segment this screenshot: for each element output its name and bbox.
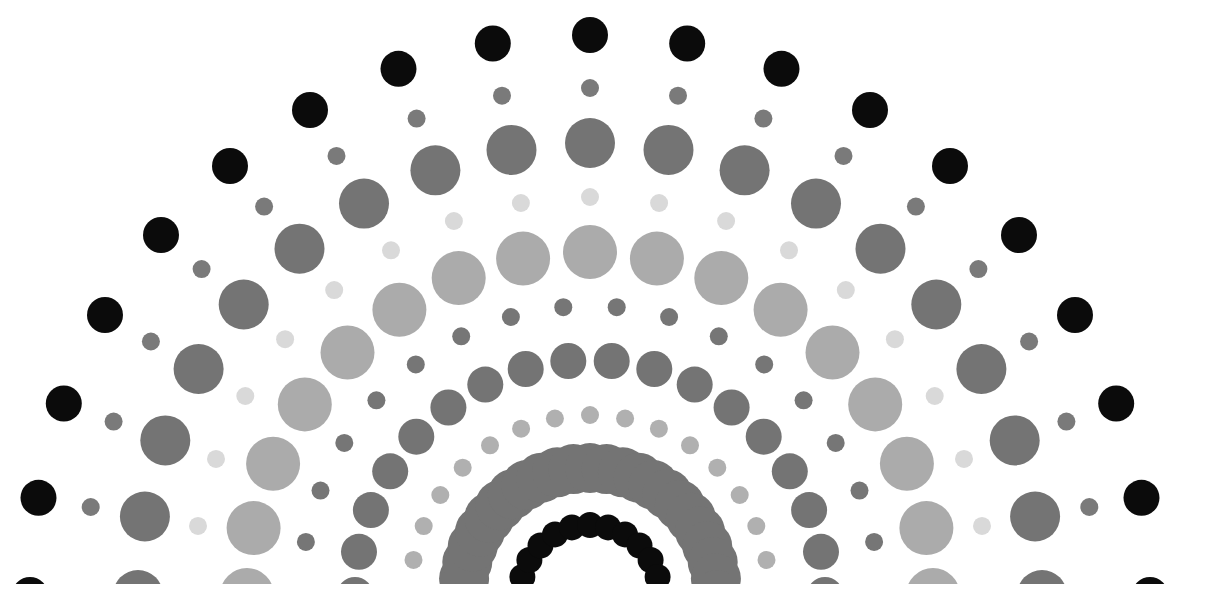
dot — [1098, 386, 1134, 422]
dot — [405, 551, 423, 569]
dot — [236, 387, 254, 405]
dot — [807, 577, 843, 584]
dot — [565, 118, 615, 168]
dot — [636, 351, 672, 387]
dot — [681, 436, 699, 454]
dot — [341, 534, 377, 570]
dot — [554, 298, 572, 316]
outer-black-ring — [12, 17, 1168, 584]
dot — [932, 148, 968, 184]
dot — [467, 367, 503, 403]
dot — [803, 534, 839, 570]
dot — [795, 391, 813, 409]
dot — [382, 241, 400, 259]
dot — [496, 232, 550, 286]
dot — [487, 125, 537, 175]
dot — [1020, 333, 1038, 351]
dot — [372, 283, 426, 337]
dot — [581, 188, 599, 206]
dot — [1057, 297, 1093, 333]
dot — [367, 391, 385, 409]
dot — [212, 148, 248, 184]
dot — [454, 459, 472, 477]
dot — [46, 386, 82, 422]
dot — [907, 198, 925, 216]
dot — [758, 551, 776, 569]
dot — [835, 147, 853, 165]
dot — [493, 87, 511, 105]
dot — [353, 492, 389, 528]
dot — [546, 410, 564, 428]
dot — [880, 437, 934, 491]
dot — [550, 343, 586, 379]
dot — [720, 145, 770, 195]
dot — [856, 224, 906, 274]
dot — [372, 453, 408, 489]
dot — [502, 308, 520, 326]
dot — [407, 355, 425, 373]
dot — [82, 498, 100, 516]
dot — [848, 377, 902, 431]
dot — [906, 568, 960, 584]
dot — [990, 415, 1040, 465]
dot — [432, 251, 486, 305]
dot — [1010, 492, 1060, 542]
dot — [193, 260, 211, 278]
dot — [772, 453, 808, 489]
dot — [563, 225, 617, 279]
dot — [337, 577, 373, 584]
dot — [714, 390, 750, 426]
dot — [325, 281, 343, 299]
dot — [886, 330, 904, 348]
dot — [731, 486, 749, 504]
dot — [174, 344, 224, 394]
dot — [594, 343, 630, 379]
dot — [512, 194, 530, 212]
dot — [381, 51, 417, 87]
dot — [275, 224, 325, 274]
dot — [669, 87, 687, 105]
dot — [630, 232, 684, 286]
dot — [430, 390, 466, 426]
dot — [865, 533, 883, 551]
dot — [669, 26, 705, 62]
dot — [415, 517, 433, 535]
dot — [660, 308, 678, 326]
dot — [292, 92, 328, 128]
bottom-blank-strip — [0, 584, 1209, 602]
dot — [956, 344, 1006, 394]
dot — [219, 280, 269, 330]
dot — [335, 434, 353, 452]
dot — [431, 486, 449, 504]
dot — [969, 260, 987, 278]
dot — [255, 198, 273, 216]
dot — [677, 367, 713, 403]
dot — [312, 482, 330, 500]
dot — [899, 501, 953, 555]
dot — [87, 297, 123, 333]
dot — [445, 212, 463, 230]
dot — [572, 17, 608, 53]
dot — [746, 419, 782, 455]
dot — [1001, 217, 1037, 253]
dot — [851, 482, 869, 500]
dot — [747, 517, 765, 535]
dot — [755, 355, 773, 373]
dot — [21, 480, 57, 516]
dot — [708, 459, 726, 477]
dot — [780, 241, 798, 259]
dot — [410, 145, 460, 195]
dot — [512, 420, 530, 438]
dot — [616, 410, 634, 428]
dot — [581, 406, 599, 424]
dot — [276, 330, 294, 348]
inner-black-ring — [507, 512, 673, 584]
dot — [143, 217, 179, 253]
dot — [973, 517, 991, 535]
dot — [694, 251, 748, 305]
dot — [321, 326, 375, 380]
dot — [508, 351, 544, 387]
dot — [1124, 480, 1160, 516]
dot — [328, 147, 346, 165]
dot — [754, 110, 772, 128]
